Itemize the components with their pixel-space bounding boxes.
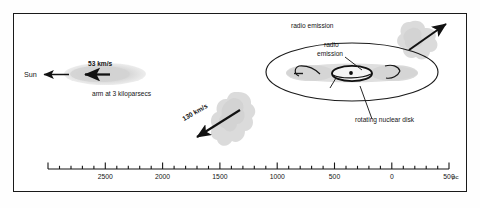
scale-tick-2000: 2000 [155,173,170,180]
galactic-nucleus-dot [349,71,353,75]
scale-tick-0: 0 [390,173,394,180]
radio-emission-inner-label-line1: radio [324,41,339,48]
arm-3kpc-label: arm at 3 kiloparsecs [92,90,151,97]
scale-tick-1500: 1500 [212,173,227,180]
intermediate-velocity-cloud [211,92,255,146]
radio-emission-inner-label-line2: emission [317,50,343,57]
scale-bar [48,163,449,170]
rotating-nuclear-disk-shape [332,66,372,81]
rotating-nuclear-disk-label: rotating nuclear disk [355,116,414,123]
scale-tick-1000: 1000 [270,173,285,180]
scale-tick-500-left: 500 [329,173,340,180]
scale-tick-2500: 2500 [98,173,113,180]
diagram-vector-layer [0,0,480,208]
sun-label: Sun [24,70,37,79]
scale-unit-label: pc [452,173,459,180]
velocity-53-label: 53 km/s [88,60,112,67]
radio-emission-outer-label: radio emission [291,22,334,29]
figure-canvas: Sun 53 km/s arm at 3 kiloparsecs 130 km/… [0,0,480,208]
